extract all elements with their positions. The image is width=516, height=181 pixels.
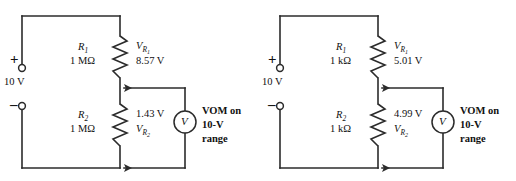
- right-r1-voltage-label: VR1: [394, 40, 408, 56]
- circuit-diagram: + 10 V – R1 1 MΩ VR1 8.57 V R2 1 MΩ 1.43…: [0, 0, 516, 181]
- right-r1-value: 1 kΩ: [330, 55, 351, 66]
- left-vom-line3: range: [202, 133, 228, 144]
- right-vom-line1: VOM on: [460, 105, 499, 116]
- left-r2-voltage-label-subsub: 2: [147, 133, 150, 139]
- left-r2-voltage-value: 1.43 V: [136, 108, 164, 119]
- left-r1-name-sub: 1: [84, 46, 88, 55]
- left-r2-name-sub: 2: [84, 114, 88, 123]
- right-resistor-r2-symbol: [371, 104, 385, 146]
- left-circuit-wires: [22, 16, 120, 168]
- left-r2-voltage-label: VR2: [136, 123, 150, 139]
- right-r2-voltage-value: 4.99 V: [394, 108, 422, 119]
- left-r2-name: R2: [78, 109, 88, 123]
- left-source-minus-sign: –: [10, 97, 18, 112]
- left-vom-line2: 10-V: [202, 119, 224, 130]
- right-r2-name: R2: [336, 109, 346, 123]
- right-r1-name-sub: 1: [342, 46, 346, 55]
- left-r1-name: R1: [78, 41, 88, 55]
- right-r2-voltage-label: VR2: [394, 123, 408, 139]
- right-vom-line3: range: [460, 133, 486, 144]
- right-r1-voltage-value: 5.01 V: [394, 55, 422, 66]
- left-vom-line1: VOM on: [202, 105, 241, 116]
- left-r1-voltage-label: VR1: [136, 40, 150, 56]
- left-resistor-r1-symbol: [113, 36, 127, 78]
- right-r2-voltage-label-subsub: 2: [405, 133, 408, 139]
- left-r1-value: 1 MΩ: [70, 55, 95, 66]
- right-r2-name-sub: 2: [342, 114, 346, 123]
- right-source-value: 10 V: [262, 76, 283, 87]
- right-voltmeter-letter: V: [439, 115, 446, 127]
- left-source-value: 10 V: [4, 76, 25, 87]
- right-resistor-r1-symbol: [371, 36, 385, 78]
- left-r2-value: 1 MΩ: [70, 123, 95, 134]
- right-r1-name: R1: [336, 41, 346, 55]
- left-resistor-r2-symbol: [113, 104, 127, 146]
- right-vom-line2: 10-V: [460, 119, 482, 130]
- right-source-plus-sign: +: [268, 52, 277, 67]
- right-source-minus-sign: –: [268, 97, 276, 112]
- right-r2-value: 1 kΩ: [330, 123, 351, 134]
- left-source-plus-sign: +: [10, 52, 19, 67]
- left-voltmeter-letter: V: [181, 115, 188, 127]
- circuit-schematic-svg: [0, 0, 516, 181]
- right-circuit-wires: [280, 16, 378, 168]
- left-r1-voltage-value: 8.57 V: [136, 55, 164, 66]
